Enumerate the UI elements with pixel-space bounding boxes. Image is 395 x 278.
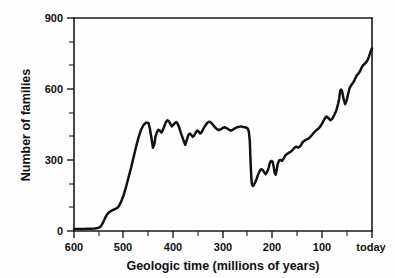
x-tick-label-200: 200 xyxy=(263,241,281,253)
y-tick-label-900: 900 xyxy=(45,12,63,24)
y-tick-label-600: 600 xyxy=(45,83,63,95)
y-axis-tick-labels: 900 600 300 0 xyxy=(45,12,63,237)
y-axis-title: Number of families xyxy=(19,69,33,182)
x-axis-tick-labels: 600 500 400 300 200 100 today xyxy=(65,241,387,253)
x-tick-label-300: 300 xyxy=(214,241,232,253)
x-tick-label-100: 100 xyxy=(313,241,331,253)
x-tick-label-500: 500 xyxy=(114,241,132,253)
y-axis-major-ticks xyxy=(67,18,74,231)
chart-svg: 900 600 300 0 600 500 400 300 200 100 to… xyxy=(0,0,395,278)
x-axis-major-ticks xyxy=(74,231,372,238)
x-axis-title: Geologic time (millions of years) xyxy=(126,259,319,273)
axis-frame xyxy=(74,18,372,231)
y-tick-label-0: 0 xyxy=(57,225,63,237)
y-tick-label-300: 300 xyxy=(45,154,63,166)
x-tick-label-today: today xyxy=(356,241,386,253)
x-tick-label-600: 600 xyxy=(65,241,83,253)
data-series-marine-families xyxy=(74,48,372,229)
figure-container: 900 600 300 0 600 500 400 300 200 100 to… xyxy=(0,0,395,278)
chart-page: 900 600 300 0 600 500 400 300 200 100 to… xyxy=(0,0,395,278)
x-tick-label-400: 400 xyxy=(164,241,182,253)
